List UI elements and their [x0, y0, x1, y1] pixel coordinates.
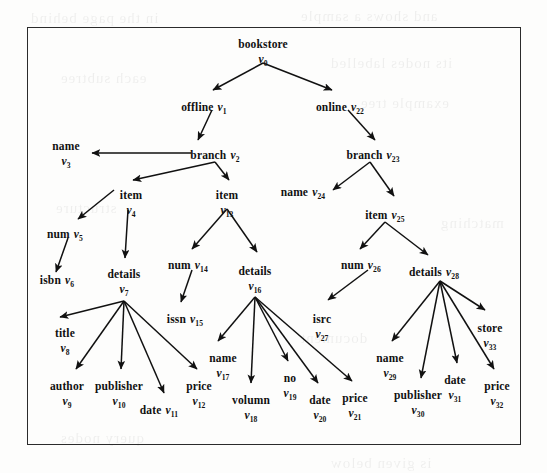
node-label-v12: price — [186, 380, 212, 392]
tree-node-v20: datev20 — [309, 394, 331, 424]
tree-node-v17: namev17 — [209, 352, 236, 382]
tree-node-v32: pricev32 — [484, 380, 510, 410]
node-label-v4: item — [120, 189, 142, 201]
node-id-v24: v24 — [312, 186, 325, 198]
node-label-v28: details — [409, 266, 442, 278]
node-id-v15: v15 — [190, 313, 203, 325]
node-id-v6: v6 — [65, 274, 74, 286]
tree-node-v27: isrcv27 — [313, 313, 331, 343]
node-label-v15: issn — [167, 313, 186, 325]
tree-node-v15: issnv15 — [167, 313, 203, 328]
tree-node-v21: pricev21 — [342, 392, 368, 422]
node-id-v5: v5 — [74, 228, 83, 240]
node-label-v13: item — [216, 189, 238, 201]
tree-node-v24: namev24 — [281, 186, 326, 201]
node-label-v9: author — [50, 380, 84, 392]
node-label-v19: no — [283, 372, 296, 384]
tree-node-v30: publisherv30 — [394, 389, 442, 419]
node-id-v25: v25 — [392, 209, 405, 221]
node-label-v31: date — [444, 374, 466, 386]
tree-node-v0: bookstorev0 — [238, 38, 288, 68]
tree-node-v12: pricev12 — [186, 380, 212, 410]
tree-node-v11: datev11 — [140, 404, 178, 419]
tree-node-v29: namev29 — [376, 352, 403, 382]
tree-node-v23: branchv23 — [346, 149, 399, 164]
tree-node-v22: onlinev22 — [316, 101, 364, 116]
tree-node-v9: authorv9 — [50, 380, 84, 410]
tree-node-v3: namev3 — [52, 140, 79, 170]
tree-node-v14: numv14 — [168, 259, 208, 274]
node-label-v21: price — [342, 392, 368, 404]
tree-node-v16: detailsv16 — [239, 265, 272, 295]
node-label-v6: isbn — [40, 274, 61, 286]
tree-node-v7: detailsv7 — [108, 268, 141, 298]
node-label-v18: volumn — [232, 394, 270, 406]
node-id-v19: v19 — [283, 387, 296, 402]
tree-node-v2: branchv2 — [190, 149, 239, 164]
tree-node-v25: itemv25 — [365, 209, 404, 224]
tree-node-v26: numv26 — [341, 259, 381, 274]
node-id-v31: v31 — [444, 389, 466, 404]
node-id-v26: v26 — [368, 259, 381, 271]
tree-node-v31: datev31 — [444, 374, 466, 404]
tree-node-v4: itemv4 — [120, 189, 142, 219]
node-id-v0: v0 — [238, 53, 288, 68]
node-label-v20: date — [309, 394, 331, 406]
node-label-v5: num — [47, 228, 70, 240]
node-label-v8: title — [55, 327, 75, 339]
tree-node-v19: nov19 — [283, 372, 296, 402]
figure-page: in the page behindand shows a sampleits … — [0, 0, 547, 473]
node-label-v10: publisher — [95, 380, 143, 392]
node-label-v14: num — [168, 259, 191, 271]
node-label-v29: name — [376, 352, 403, 364]
tree-node-v33: storev33 — [478, 322, 503, 352]
node-id-v28: v28 — [446, 266, 459, 278]
bleed-text-0: in the page behind — [30, 10, 158, 27]
node-id-v18: v18 — [232, 409, 270, 424]
node-id-v11: v11 — [165, 404, 178, 416]
node-label-v25: item — [365, 209, 387, 221]
node-id-v16: v16 — [239, 280, 272, 295]
bleed-text-9: is given below — [330, 455, 432, 472]
tree-node-v28: detailsv28 — [409, 266, 459, 281]
node-label-v11: date — [140, 404, 162, 416]
node-id-v20: v20 — [309, 409, 331, 424]
node-id-v30: v30 — [394, 404, 442, 419]
node-label-v3: name — [52, 140, 79, 152]
node-id-v27: v27 — [313, 328, 331, 343]
node-label-v32: price — [484, 380, 510, 392]
node-id-v1: v1 — [218, 101, 227, 113]
tree-node-v13: itemv13 — [216, 189, 238, 219]
node-label-v24: name — [281, 186, 308, 198]
node-id-v33: v33 — [478, 337, 503, 352]
node-id-v21: v21 — [342, 407, 368, 422]
node-label-v16: details — [239, 265, 272, 277]
node-label-v7: details — [108, 268, 141, 280]
node-label-v27: isrc — [313, 313, 331, 325]
node-label-v33: store — [478, 322, 503, 334]
tree-node-v5: numv5 — [47, 228, 83, 243]
node-label-v30: publisher — [394, 389, 442, 401]
tree-node-v1: offlinev1 — [181, 101, 227, 116]
node-id-v10: v10 — [95, 395, 143, 410]
node-id-v8: v8 — [55, 342, 75, 357]
tree-node-v18: volumnv18 — [232, 394, 270, 424]
node-id-v32: v32 — [484, 395, 510, 410]
node-id-v7: v7 — [108, 283, 141, 298]
bleed-text-1: and shows a sample — [300, 8, 438, 25]
node-id-v9: v9 — [50, 395, 84, 410]
node-label-v0: bookstore — [238, 38, 288, 50]
node-id-v14: v14 — [195, 259, 208, 271]
node-id-v23: v23 — [386, 149, 399, 161]
node-id-v13: v13 — [216, 204, 238, 219]
node-id-v2: v2 — [230, 149, 239, 161]
node-label-v2: branch — [190, 149, 226, 161]
node-label-v1: offline — [181, 101, 213, 113]
node-id-v22: v22 — [351, 101, 364, 113]
node-label-v17: name — [209, 352, 236, 364]
node-id-v4: v4 — [120, 204, 142, 219]
tree-node-v8: titlev8 — [55, 327, 75, 357]
node-id-v17: v17 — [209, 367, 236, 382]
node-label-v26: num — [341, 259, 364, 271]
node-label-v22: online — [316, 101, 347, 113]
